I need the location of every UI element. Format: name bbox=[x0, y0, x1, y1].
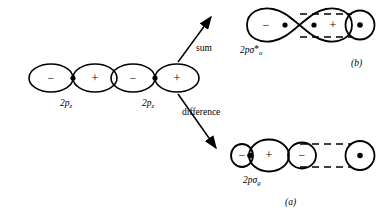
sum-arrow bbox=[178, 17, 211, 62]
antibonding-right-nucleus-dot bbox=[311, 22, 316, 27]
antibonding-right-atom-dot bbox=[357, 22, 363, 28]
bonding-right-negative-sign: − bbox=[292, 149, 312, 161]
ao-right-positive-sign: + bbox=[167, 72, 187, 84]
bonding-label-subscript: g bbox=[257, 179, 260, 186]
difference-arrow-line bbox=[178, 94, 216, 148]
antibonding-label-subscript: u bbox=[259, 49, 262, 56]
difference-arrow-label: difference bbox=[182, 108, 220, 118]
ao-right-label-subscript: z bbox=[152, 102, 155, 109]
antibonding-negative-sign: − bbox=[256, 19, 276, 31]
antibonding-positive-sign: + bbox=[323, 19, 343, 31]
ao-left-positive-sign: + bbox=[85, 72, 105, 84]
ao-right-label-base: 2p bbox=[142, 98, 152, 108]
bonding-orbital-label: 2pσg bbox=[243, 176, 261, 187]
molecular-orbital-diagram: − + − + − + − + − 2pz 2pz sum difference… bbox=[0, 0, 383, 217]
bonding-center-positive-sign: + bbox=[259, 149, 279, 161]
antibonding-label-base: 2pσ bbox=[240, 45, 254, 55]
ao-left-nucleus-dot bbox=[70, 75, 75, 80]
panel-label-a: (a) bbox=[285, 198, 296, 208]
sum-arrow-line bbox=[178, 17, 211, 62]
bonding-right-atom-dot bbox=[357, 153, 363, 159]
ao-right-nucleus-dot bbox=[152, 75, 157, 80]
difference-arrow bbox=[178, 94, 216, 148]
bonding-label-base: 2pσ bbox=[243, 175, 257, 185]
antibonding-orbital-label: 2pσ*u bbox=[240, 45, 262, 57]
ao-right-label: 2pz bbox=[142, 99, 154, 110]
ao-right-negative-sign: − bbox=[123, 72, 143, 84]
sum-arrow-label: sum bbox=[196, 44, 212, 54]
ao-left-label: 2pz bbox=[60, 99, 72, 110]
ao-left-label-base: 2p bbox=[60, 98, 70, 108]
ao-left-negative-sign: − bbox=[41, 72, 61, 84]
panel-label-b: (b) bbox=[351, 59, 362, 69]
ao-left-label-subscript: z bbox=[70, 102, 73, 109]
antibonding-left-nucleus-dot bbox=[282, 22, 287, 27]
bonding-left-negative-sign: − bbox=[232, 149, 252, 161]
